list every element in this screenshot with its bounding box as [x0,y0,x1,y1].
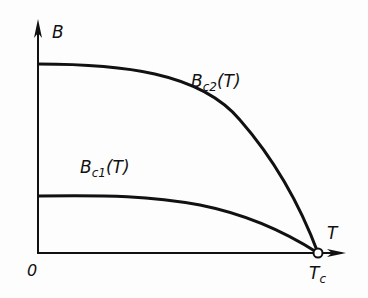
bc1-label: Bc1(T) [80,159,130,176]
bc1-label-sub: c1 [92,166,106,180]
bc2-label-main: B [191,71,203,91]
critical-field-diagram: B Bc2(T) Bc1(T) 0 T Tc [0,0,368,298]
tc-label-sub: c [319,272,326,286]
tc-label-main: T [309,263,319,283]
diagram-graphics [0,0,368,298]
bc2-label-suffix: (T) [217,71,241,91]
y-axis-label: B [52,24,64,41]
bc2-label-sub: c2 [203,80,217,94]
x-axis-label: T [327,225,337,242]
bc1-label-suffix: (T) [106,157,130,177]
tc-label: Tc [309,265,326,282]
origin-label: 0 [27,263,37,279]
bc2-label: Bc2(T) [191,73,241,90]
tc-point-marker [314,249,323,258]
bc1-label-main: B [80,157,92,177]
bc1-curve [38,196,318,253]
